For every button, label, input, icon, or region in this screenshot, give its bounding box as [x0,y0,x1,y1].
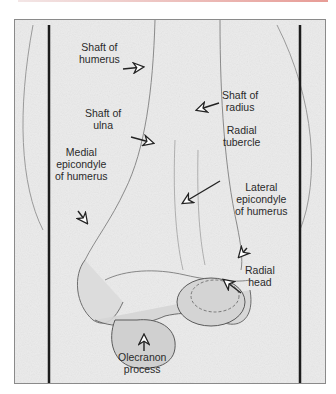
label-line: Lateral [235,181,288,193]
label-line: Shaft of [79,41,120,53]
label-radial-head: Radial head [245,264,275,288]
label-line: Shaft of [222,89,258,101]
label-line: tubercle [223,136,260,148]
label-radial-tubercle: Radial tubercle [223,124,260,148]
label-line: Medial [55,146,108,158]
label-line: ulna [85,119,121,131]
label-line: Olecranon [118,351,166,363]
label-line: process [118,363,166,375]
label-line: head [245,276,275,288]
label-line: of humerus [235,205,288,217]
xray-figure-frame: Shaft of humerus Shaft of radius Shaft o… [14,19,326,384]
label-line: Radial [223,124,260,136]
label-line: Shaft of [85,107,121,119]
label-line: epicondyle [235,193,288,205]
label-medial-epicondyle: Medial epicondyle of humerus [55,146,108,182]
label-line: humerus [79,53,120,65]
label-shaft-of-ulna: Shaft of ulna [85,107,121,131]
top-accent-line [18,0,328,2]
label-shaft-of-humerus: Shaft of humerus [79,41,120,65]
label-line: epicondyle [55,158,108,170]
label-line: of humerus [55,170,108,182]
label-line: Radial [245,264,275,276]
label-olecranon-process: Olecranon process [118,351,166,375]
label-lateral-epicondyle: Lateral epicondyle of humerus [235,181,288,217]
label-line: radius [222,101,258,113]
label-shaft-of-radius: Shaft of radius [222,89,258,113]
